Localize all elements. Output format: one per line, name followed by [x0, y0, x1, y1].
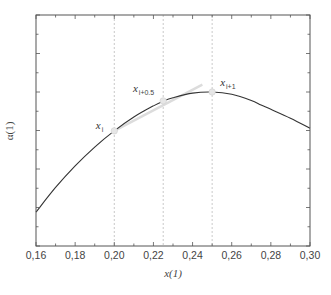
chart: 0,160,180,200,220,240,260,280,30 x(1) α(… — [0, 0, 331, 295]
series-layer — [36, 85, 310, 212]
axis-ticks — [36, 15, 310, 246]
x-tick-label: 0,20 — [104, 249, 125, 261]
plot-frame — [36, 15, 310, 246]
point-marker — [111, 128, 117, 134]
x-tick-label: 0,16 — [26, 249, 47, 261]
x-axis-title: x(1) — [163, 267, 182, 280]
x-tick-label: 0,28 — [261, 249, 282, 261]
alpha-curve — [36, 92, 310, 212]
point-label: xi+0.5 — [132, 82, 154, 96]
point-marker — [209, 89, 215, 95]
x-tick-label: 0,26 — [221, 249, 242, 261]
point-label: xi+1 — [219, 76, 236, 90]
vertical-reference-lines — [114, 15, 212, 246]
x-tick-label: 0,30 — [300, 249, 321, 261]
x-tick-label: 0,22 — [143, 249, 164, 261]
x-tick-labels: 0,160,180,200,220,240,260,280,30 — [26, 249, 321, 261]
linear-segment-line — [114, 85, 202, 131]
x-tick-label: 0,18 — [65, 249, 86, 261]
point-marker — [160, 98, 166, 104]
y-axis-title: α(1) — [3, 121, 16, 140]
point-label: xi — [95, 119, 104, 133]
x-tick-label: 0,24 — [182, 249, 203, 261]
